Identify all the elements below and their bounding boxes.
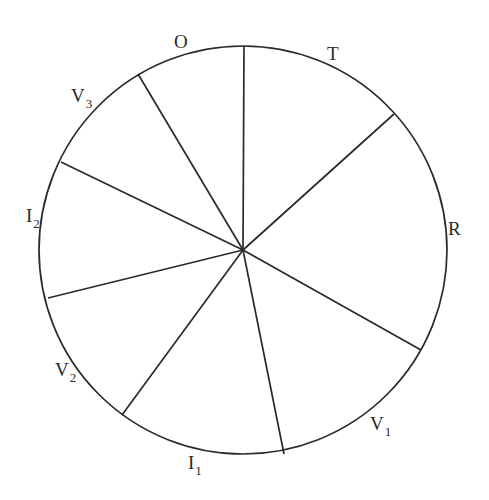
spokes: [48, 46, 421, 454]
spoke-line: [243, 46, 244, 250]
spoke-line: [243, 250, 284, 454]
spoke-line: [243, 250, 421, 350]
sector-label-o: O: [174, 31, 188, 52]
spoke-line: [138, 74, 243, 250]
sector-circle-diagram: OTRV1I1V2I2V3: [0, 0, 489, 500]
sector-label-i2: I2: [26, 205, 40, 231]
sector-label-v3: V3: [71, 85, 92, 111]
sector-label-v1: V1: [370, 413, 391, 439]
spoke-line: [243, 114, 394, 250]
sector-label-r: R: [448, 218, 461, 239]
sector-label-i1: I1: [188, 452, 202, 478]
sector-label-t: T: [327, 43, 339, 64]
spoke-line: [61, 162, 243, 250]
